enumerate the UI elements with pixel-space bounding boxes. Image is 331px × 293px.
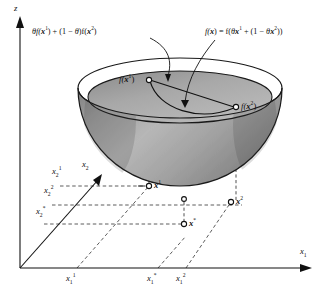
x1-tick-label-1: x11 xyxy=(66,273,75,285)
marker-x1 xyxy=(146,183,151,188)
x2-tick-label-1: x21 xyxy=(52,166,61,178)
bowl-surface xyxy=(78,58,282,186)
point-label-fx2: f(x2) xyxy=(241,101,256,110)
axis-label-x1: x1 xyxy=(300,247,307,258)
x1-axis-arrow xyxy=(300,264,312,272)
marker-xstar xyxy=(181,221,186,226)
annotation-right-function-value: f(x) = f(θx1 + (1 − θx2)) xyxy=(205,26,282,36)
marker-fx1 xyxy=(146,77,151,82)
point-label-xstar: x* xyxy=(189,218,196,227)
marker-fx2 xyxy=(233,104,238,109)
x2-tick-label-star: x2* xyxy=(36,206,45,218)
x1-tick-label-2: x12 xyxy=(176,273,185,285)
plane-construction-lines xyxy=(44,186,242,268)
figure-canvas xyxy=(0,0,331,293)
point-label-x2: x2 xyxy=(236,196,243,205)
annotation-left-chord-value: θf(x1) + (1 − θ)f(x2) xyxy=(32,26,97,36)
z-axis-arrow xyxy=(16,16,24,28)
x2-tick-label-2: x22 xyxy=(44,185,53,197)
marker-xstar-surface xyxy=(182,197,187,202)
axis-label-x2: x2 xyxy=(82,160,89,171)
x1-tick-label-star: x1* xyxy=(147,273,156,285)
convex-function-figure: z x1 x2 θf(x1) + (1 − θ)f(x2) f(x) = f(θ… xyxy=(0,0,331,293)
point-label-x1: x1 xyxy=(154,180,161,189)
axis-label-z: z xyxy=(14,4,17,13)
point-label-fx1: f(x1) xyxy=(119,74,134,83)
marker-x2 xyxy=(228,199,233,204)
